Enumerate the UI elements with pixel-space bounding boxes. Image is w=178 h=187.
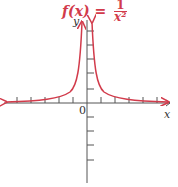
curve-right — [92, 22, 168, 102]
y-axis-label: y — [73, 15, 79, 28]
curve-left — [6, 22, 82, 102]
graph — [0, 0, 178, 187]
x-axis-label: x — [164, 108, 170, 121]
origin-label: 0 — [79, 104, 86, 117]
